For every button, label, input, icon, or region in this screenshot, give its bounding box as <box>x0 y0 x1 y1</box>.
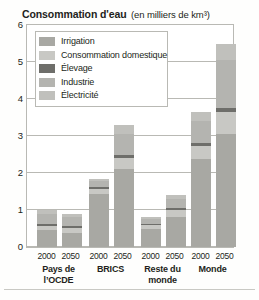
bar-segment <box>216 134 236 247</box>
legend-item-2: Élevage <box>39 62 163 76</box>
bar-segment <box>216 60 236 107</box>
bar-1-2000 <box>89 179 109 247</box>
bar-segment <box>37 214 57 224</box>
y-tick-label-6: 6 <box>18 19 23 30</box>
legend-swatch-icon <box>39 37 55 46</box>
bar-3-2050 <box>216 44 236 247</box>
y-tick-label-5: 5 <box>18 56 23 67</box>
bar-segment <box>114 158 134 169</box>
bar-0-2000 <box>37 210 57 247</box>
legend-item-1: Consommation domestique <box>39 49 163 63</box>
legend-swatch-icon <box>39 64 55 73</box>
legend-swatch-icon <box>39 78 55 87</box>
chart-title-subtitle: (en milliers de km³) <box>131 9 210 20</box>
bar-segment <box>191 146 211 159</box>
legend-item-4: Électricité <box>39 89 163 103</box>
bar-segment <box>89 194 109 247</box>
legend-item-label: Consommation domestique <box>61 51 167 60</box>
y-tick-label-2: 2 <box>18 167 23 178</box>
bar-segment <box>191 112 211 121</box>
bar-2-2000 <box>141 217 161 247</box>
bar-segment <box>166 199 186 208</box>
legend-item-label: Élevage <box>61 64 92 73</box>
bar-1-2050 <box>114 125 134 247</box>
y-tick-label-4: 4 <box>18 93 23 104</box>
bar-segment <box>114 169 134 247</box>
x-group-name-line2: l’OCDE <box>24 275 93 286</box>
bar-segment <box>89 181 109 188</box>
bar-segment <box>191 121 211 143</box>
bar-2-2050 <box>166 195 186 247</box>
y-tick-label-3: 3 <box>18 130 23 141</box>
bar-3-2000 <box>191 112 211 247</box>
footer-divider <box>4 289 255 290</box>
bar-segment <box>37 230 57 247</box>
x-group-name: Monde <box>178 264 247 275</box>
water-consumption-chart-figure: Consommation d'eau (en milliers de km³) … <box>0 0 259 300</box>
chart-title: Consommation d'eau (en milliers de km³) <box>22 4 210 22</box>
chart-legend: IrrigationConsommation domestiqueÉlevage… <box>35 31 168 107</box>
legend-item-0: Irrigation <box>39 35 163 49</box>
bar-segment <box>166 217 186 247</box>
legend-item-label: Irrigation <box>61 37 95 46</box>
chart-title-main: Consommation d'eau <box>22 8 127 20</box>
bar-segment <box>216 44 236 61</box>
bar-segment <box>191 159 211 247</box>
plot-area: 0123456 IrrigationConsommation domestiqu… <box>26 24 234 248</box>
bar-0-2050 <box>62 214 82 247</box>
x-tick-year: 2050 <box>213 251 237 261</box>
bar-segment <box>114 134 134 155</box>
bar-segment <box>62 233 82 247</box>
legend-item-3: Industrie <box>39 76 163 90</box>
bar-segment <box>166 210 186 217</box>
legend-swatch-icon <box>39 51 55 60</box>
legend-swatch-icon <box>39 91 55 100</box>
x-group-name-line2: monde <box>128 275 197 286</box>
bar-segment <box>216 112 236 134</box>
y-tick-label-0: 0 <box>18 241 23 252</box>
bar-segment <box>141 229 161 248</box>
legend-item-label: Électricité <box>61 91 98 100</box>
x-tick-year: 2000 <box>139 251 163 261</box>
y-tick-label-1: 1 <box>18 204 23 215</box>
bar-segment <box>114 125 134 134</box>
x-tick-year: 2000 <box>189 251 213 261</box>
x-tick-year: 2000 <box>87 251 111 261</box>
x-tick-year: 2000 <box>35 251 59 261</box>
x-group-3: 20002050Monde <box>178 251 247 275</box>
bar-segment <box>62 217 82 226</box>
legend-item-label: Industrie <box>61 78 94 87</box>
